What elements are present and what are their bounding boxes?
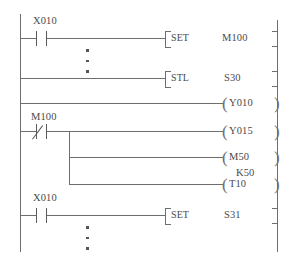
branch-wire-m50 [69, 157, 223, 158]
rung-3-wire [20, 103, 223, 104]
contact-label-m100: M100 [31, 112, 57, 123]
ellipsis-dot [86, 237, 89, 240]
ellipsis-dot [86, 70, 89, 73]
instruction-operand-s30: S30 [224, 73, 241, 84]
contact-x010-normally-open-2[interactable] [36, 208, 47, 223]
coil-paren-open-m50: ( [222, 150, 229, 165]
branch-wire-y015 [69, 131, 223, 132]
rung-4-wire-to-branch [47, 131, 70, 132]
instruction-bracket-close-1 [272, 31, 278, 47]
rung-5-wire-left [20, 215, 36, 216]
ladder-diagram-canvas: X010 SET M100 STL S30 ( Y010 ) M100 ( Y0… [0, 0, 299, 264]
contact-m100-normally-closed[interactable] [36, 124, 47, 139]
coil-label-t10: T10 [229, 179, 246, 190]
coil-label-m50: M50 [229, 152, 249, 163]
coil-paren-open-y010: ( [222, 96, 229, 111]
ellipsis-dot [86, 60, 89, 63]
coil-label-y015: Y015 [229, 126, 253, 137]
coil-paren-close-t10: ) [274, 177, 281, 192]
vertical-ellipsis-lower [86, 226, 89, 258]
ellipsis-dot [86, 49, 89, 52]
contact-bar-left [36, 208, 37, 223]
coil-label-y010: Y010 [229, 98, 253, 109]
coil-paren-close-m50: ) [274, 150, 281, 165]
timer-preset-label-k50: K50 [236, 168, 254, 179]
contact-bar-left [36, 31, 37, 46]
contact-label-x010-first: X010 [33, 16, 57, 27]
rung-1-wire-left [20, 38, 36, 39]
scan-artifact-band [0, 0, 299, 7]
contact-label-x010-last: X010 [33, 193, 57, 204]
coil-paren-close-y010: ) [274, 96, 281, 111]
vertical-ellipsis-upper [86, 49, 89, 81]
rung-5-wire-right [47, 215, 165, 216]
coil-paren-open-t10: ( [222, 177, 229, 192]
rung-4-wire-left [20, 131, 36, 132]
branch-wire-t10 [69, 184, 223, 185]
ellipsis-dot [86, 247, 89, 250]
rung-2-wire [20, 78, 165, 79]
contact-x010-normally-open-1[interactable] [36, 31, 47, 46]
instruction-operand-m100: M100 [222, 33, 248, 44]
rung-1-wire-right [47, 38, 165, 39]
instruction-mnemonic-set-2: SET [171, 210, 189, 220]
instruction-mnemonic-stl: STL [171, 73, 189, 83]
instruction-operand-s31: S31 [224, 210, 241, 221]
instruction-mnemonic-set-1: SET [171, 33, 189, 43]
instruction-bracket-close-2 [272, 71, 278, 87]
power-rail-left [20, 14, 21, 252]
contact-slash-normally-closed [32, 125, 43, 139]
coil-paren-open-y015: ( [222, 124, 229, 139]
coil-paren-close-y015: ) [274, 124, 281, 139]
ellipsis-dot [86, 226, 89, 229]
instruction-bracket-close-3 [272, 208, 278, 224]
